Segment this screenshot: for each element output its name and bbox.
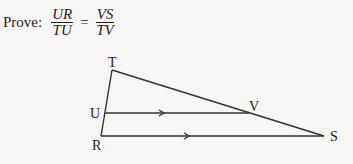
label-V: V	[249, 99, 259, 114]
triangle-diagram: T U V R S	[0, 0, 353, 164]
label-U: U	[90, 106, 100, 121]
segment-TR	[101, 70, 112, 136]
segment-TS	[112, 70, 324, 136]
label-T: T	[108, 55, 117, 70]
label-S: S	[330, 129, 338, 144]
label-R: R	[92, 138, 102, 153]
